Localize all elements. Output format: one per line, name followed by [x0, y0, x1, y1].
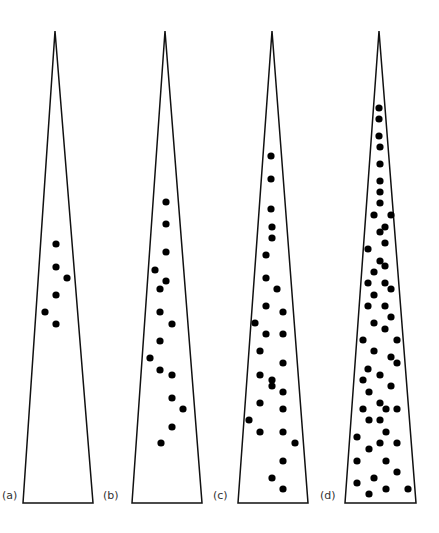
particle-dot [41, 308, 48, 315]
particle-dot [359, 336, 366, 343]
particle-dot [179, 405, 186, 412]
panel-b [132, 31, 202, 503]
panel-c [238, 31, 308, 503]
particle-dot [381, 239, 388, 246]
cone-dot-diagram: (a) (b) (c) (d) [0, 0, 439, 533]
particle-dot [382, 405, 389, 412]
particle-dot [279, 457, 286, 464]
particle-dot [393, 439, 400, 446]
particle-dot [393, 405, 400, 412]
particle-dot [375, 132, 382, 139]
particle-dot [279, 359, 286, 366]
particle-dot [365, 388, 372, 395]
particle-dot [162, 220, 169, 227]
particle-dot [376, 199, 383, 206]
particle-dot [376, 228, 383, 235]
particle-dot [156, 308, 163, 315]
particle-dot [279, 388, 286, 395]
cone-outline [238, 31, 308, 503]
particle-dot [279, 405, 286, 412]
particle-dot [393, 359, 400, 366]
particle-dot [381, 279, 388, 286]
particle-dot [256, 347, 263, 354]
particle-dot [279, 330, 286, 337]
particle-dot [256, 371, 263, 378]
particle-dot [365, 416, 372, 423]
particle-dot [375, 104, 382, 111]
particle-dot [245, 416, 252, 423]
particle-dot [168, 320, 175, 327]
particle-dot [146, 354, 153, 361]
particle-dot [162, 198, 169, 205]
particle-dot [387, 382, 394, 389]
particle-dot [376, 371, 383, 378]
particle-dot [63, 274, 70, 281]
particle-dot [376, 160, 383, 167]
particle-dot [279, 308, 286, 315]
particle-dot [359, 376, 366, 383]
particle-dot [353, 433, 360, 440]
particle-dot [375, 115, 382, 122]
particle-dot [156, 337, 163, 344]
panel-d [345, 31, 416, 503]
cone-outline [345, 31, 416, 503]
particle-dot [376, 416, 383, 423]
particle-dot [404, 485, 411, 492]
particle-dot [381, 302, 388, 309]
particle-dot [364, 302, 371, 309]
particle-dot [268, 382, 275, 389]
particle-dot [365, 445, 372, 452]
particle-dot [382, 428, 389, 435]
particle-dot [382, 485, 389, 492]
particle-dot [364, 245, 371, 252]
particle-dot [387, 211, 394, 218]
particle-dot [370, 291, 377, 298]
particle-dot [370, 319, 377, 326]
particle-dot [370, 211, 377, 218]
particle-dot [268, 234, 275, 241]
particle-dot [268, 474, 275, 481]
particle-dot [168, 423, 175, 430]
particle-dot [262, 251, 269, 258]
particle-dot [52, 240, 59, 247]
particle-dot [387, 313, 394, 320]
panel-label-a: (a) [2, 489, 17, 502]
particle-dot [370, 268, 377, 275]
particle-dot [353, 457, 360, 464]
particle-dot [365, 490, 372, 497]
particle-dot [256, 428, 263, 435]
particle-dot [52, 320, 59, 327]
panel-a [23, 31, 93, 503]
cone-outline [132, 31, 202, 503]
particle-dot [157, 439, 164, 446]
diagram-canvas [0, 0, 439, 533]
particle-dot [376, 188, 383, 195]
particle-dot [267, 205, 274, 212]
particle-dot [168, 371, 175, 378]
particle-dot [364, 365, 371, 372]
particle-dot [376, 143, 383, 150]
particle-dot [168, 394, 175, 401]
particle-dot [382, 457, 389, 464]
particle-dot [162, 277, 169, 284]
particle-dot [262, 330, 269, 337]
panel-label-c: (c) [213, 489, 228, 502]
particle-dot [387, 285, 394, 292]
particle-dot [279, 485, 286, 492]
particle-dot [262, 274, 269, 281]
particle-dot [52, 263, 59, 270]
panel-label-b: (b) [103, 489, 119, 502]
particle-dot [156, 285, 163, 292]
particle-dot [393, 468, 400, 475]
particle-dot [273, 285, 280, 292]
particle-dot [359, 405, 366, 412]
particle-dot [162, 248, 169, 255]
particle-dot [151, 266, 158, 273]
particle-dot [251, 319, 258, 326]
particle-dot [353, 479, 360, 486]
particle-dot [279, 428, 286, 435]
particle-dot [52, 291, 59, 298]
particle-dot [291, 439, 298, 446]
particle-dot [381, 325, 388, 332]
particle-dot [393, 336, 400, 343]
